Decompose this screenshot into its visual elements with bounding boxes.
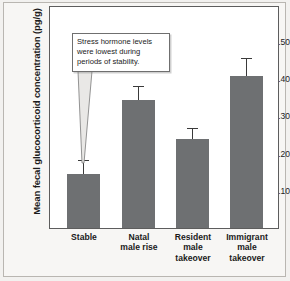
x-label-stable: Stable — [54, 232, 114, 242]
bar-resident-male-takeover — [176, 139, 209, 228]
error-cap-resident-male-takeover — [187, 128, 198, 129]
error-bar-resident-male-takeover — [192, 128, 193, 139]
error-bar-immigrant-male-takeover — [246, 58, 247, 76]
x-label-immigrant-line1: Immigrant — [214, 232, 280, 242]
bar-immigrant-male-takeover — [230, 76, 263, 228]
y-axis-title: Mean fecal glucocorticoid concentration … — [31, 7, 42, 217]
callout-annotation: Stress hormone levels were lowest during… — [72, 33, 170, 72]
error-bar-natal-male-rise — [138, 86, 139, 100]
bar-stable — [67, 174, 100, 228]
callout-pointer-icon — [72, 71, 108, 163]
bar-natal-male-rise — [122, 100, 155, 228]
x-label-immigrant-male-takeover: Immigrant male takeover — [214, 232, 280, 263]
x-label-stable-line1: Stable — [54, 232, 114, 242]
x-label-immigrant-line2: male — [214, 242, 280, 252]
error-cap-natal-male-rise — [133, 86, 144, 87]
x-label-immigrant-line3: takeover — [214, 253, 280, 263]
chart-page: Mean fecal glucocorticoid concentration … — [0, 0, 290, 281]
error-cap-immigrant-male-takeover — [241, 58, 252, 59]
